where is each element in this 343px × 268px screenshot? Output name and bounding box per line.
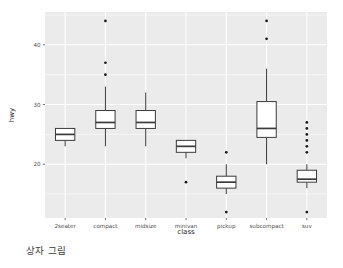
outlier-point — [306, 139, 309, 142]
box-iqr — [96, 111, 115, 129]
outlier-point — [265, 20, 268, 23]
outlier-point — [104, 20, 107, 23]
outlier-point — [225, 211, 228, 214]
y-tick-label: 40 — [33, 42, 41, 48]
box-iqr — [136, 111, 155, 129]
outlier-point — [306, 145, 309, 148]
boxplot-chart: 203040 2seatercompactmidsizeminivanpicku… — [0, 0, 343, 236]
outlier-point — [104, 61, 107, 64]
outlier-point — [306, 133, 309, 136]
x-tick-label: suv — [302, 223, 312, 229]
y-tick-label: 30 — [33, 102, 41, 108]
x-axis-title: class — [177, 228, 195, 236]
x-tick-label: pickup — [217, 223, 236, 230]
outlier-point — [306, 121, 309, 124]
x-tick-label: subcompact — [249, 223, 284, 230]
box-iqr — [257, 102, 276, 138]
outlier-point — [306, 211, 309, 214]
outlier-point — [225, 151, 228, 154]
outlier-point — [185, 181, 188, 184]
outlier-point — [104, 73, 107, 76]
x-tick-label: 2seater — [55, 223, 77, 229]
x-tick-label: compact — [93, 223, 118, 230]
chart-svg: 203040 2seatercompactmidsizeminivanpicku… — [0, 0, 343, 236]
figure-container: 203040 2seatercompactmidsizeminivanpicku… — [0, 0, 343, 268]
y-tick-label: 20 — [33, 161, 41, 167]
outlier-point — [265, 38, 268, 41]
y-axis-title: hwy — [8, 108, 16, 122]
outlier-point — [306, 127, 309, 130]
outlier-point — [306, 151, 309, 154]
y-axis: 203040 — [33, 42, 45, 167]
figure-caption: 상자 그림 — [26, 243, 66, 257]
box-iqr — [297, 170, 316, 182]
x-tick-label: midsize — [135, 223, 157, 229]
